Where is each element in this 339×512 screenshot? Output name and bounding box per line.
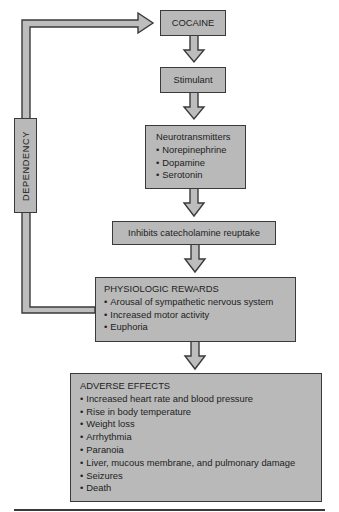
list-item: Increased heart rate and blood pressure — [80, 393, 321, 406]
node-adverse-effects-title: ADVERSE EFFECTS — [80, 380, 321, 393]
list-item: Arrhythmia — [80, 431, 321, 444]
list-item: Seizures — [80, 470, 321, 483]
adverse-effects-list: Increased heart rate and blood pressure … — [80, 393, 321, 495]
arrow-cocaine-to-stimulant — [184, 35, 204, 62]
list-item: Death — [80, 482, 321, 495]
list-item: Norepinephrine — [156, 144, 245, 157]
node-inhibits-reuptake: Inhibits catecholamine reuptake — [112, 221, 276, 245]
arrow-inhibits-to-rewards — [185, 244, 205, 272]
arrow-neurotransmitters-to-inhibits — [184, 188, 204, 216]
bottom-rule-divider — [14, 509, 325, 511]
node-stimulant-label: Stimulant — [173, 74, 212, 87]
list-item: Increased motor activity — [104, 309, 295, 322]
list-item: Rise in body temperature — [80, 406, 321, 419]
list-item: Weight loss — [80, 418, 321, 431]
node-neurotransmitters-title: Neurotransmitters — [156, 131, 245, 144]
list-item: Serotonin — [156, 169, 245, 182]
neurotransmitters-list: Norepinephrine Dopamine Serotonin — [156, 144, 245, 182]
node-inhibits-label: Inhibits catecholamine reuptake — [128, 227, 260, 240]
cocaine-effects-flowchart: DEPENDENCY COCAINE Stimulant Neurotransm… — [0, 0, 339, 512]
arrow-stimulant-to-neurotransmitters — [184, 92, 204, 119]
arrow-rewards-to-adverse — [185, 341, 205, 369]
dependency-label: DEPENDENCY — [21, 131, 31, 201]
node-physiologic-rewards-title: PHYSIOLOGIC REWARDS — [104, 283, 295, 296]
dependency-label-box: DEPENDENCY — [14, 118, 37, 213]
list-item: Arousal of sympathetic nervous system — [104, 296, 295, 309]
list-item: Paranoia — [80, 444, 321, 457]
node-neurotransmitters: Neurotransmitters Norepinephrine Dopamin… — [145, 125, 246, 189]
list-item: Liver, mucous membrane, and pulmonary da… — [80, 457, 321, 470]
node-cocaine-label: COCAINE — [172, 17, 215, 30]
node-stimulant: Stimulant — [160, 67, 226, 93]
node-physiologic-rewards: PHYSIOLOGIC REWARDS Arousal of sympathet… — [95, 277, 296, 342]
node-cocaine: COCAINE — [160, 10, 226, 36]
physiologic-rewards-list: Arousal of sympathetic nervous system In… — [104, 296, 295, 334]
list-item: Euphoria — [104, 321, 295, 334]
dependency-loop-arrow — [22, 13, 153, 313]
node-adverse-effects: ADVERSE EFFECTS Increased heart rate and… — [70, 373, 322, 502]
list-item: Dopamine — [156, 157, 245, 170]
